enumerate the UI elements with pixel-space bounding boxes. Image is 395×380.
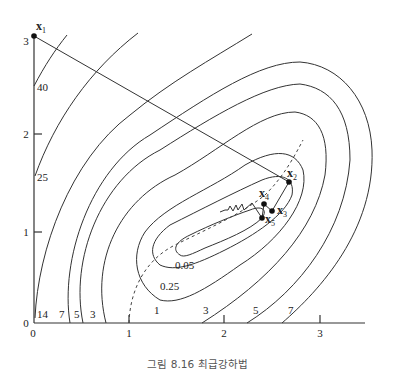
point-x5 — [259, 215, 265, 221]
contour-label-025: 0.25 — [160, 280, 180, 292]
contour-7 — [68, 62, 372, 323]
point-x2 — [286, 179, 292, 185]
contour-label-005: 0.05 — [175, 259, 195, 271]
label-x1: x1 — [36, 19, 46, 35]
contour-label-3a: 3 — [90, 308, 96, 320]
x-tick-3: 3 — [317, 327, 323, 339]
contour-1 — [137, 154, 304, 301]
contour-label-7a: 7 — [59, 308, 65, 320]
x-tick-2: 2 — [221, 327, 227, 339]
contour-lines — [34, 33, 372, 323]
label-x2: x2 — [287, 166, 297, 182]
contour-40 — [34, 35, 67, 86]
contour-label-5b: 5 — [253, 304, 259, 316]
contour-label-7b: 7 — [288, 304, 294, 316]
y-tick-2: 2 — [23, 128, 29, 140]
contour-3 — [102, 112, 326, 323]
point-x1 — [31, 33, 37, 39]
valley-dashed-line — [129, 140, 303, 323]
label-x5: x5 — [265, 212, 275, 228]
x-tick-1: 1 — [126, 327, 132, 339]
contour-label-40: 40 — [37, 81, 49, 93]
contour-label-25: 25 — [37, 171, 49, 183]
contour-25 — [35, 33, 138, 176]
y-tick-0: 0 — [23, 317, 29, 329]
point-x4 — [261, 201, 267, 207]
contour-5 — [80, 84, 350, 323]
contour-label-5a: 5 — [74, 308, 80, 320]
x-tick-0: 0 — [30, 327, 36, 339]
label-x3: x3 — [277, 203, 287, 219]
contour-label-14: 14 — [37, 308, 49, 320]
label-x4: x4 — [259, 186, 269, 202]
steepest-descent-figure: 0 1 2 3 0 1 2 3 — [0, 0, 395, 380]
y-tick-1: 1 — [23, 226, 29, 238]
figure-caption: 그림 8.16 최급강하법 — [0, 356, 395, 371]
contour-label-3b: 3 — [203, 304, 209, 316]
contour-14 — [35, 34, 252, 318]
zigzag-tail — [220, 203, 262, 218]
y-tick-3: 3 — [23, 35, 29, 47]
contour-label-1: 1 — [154, 304, 160, 316]
